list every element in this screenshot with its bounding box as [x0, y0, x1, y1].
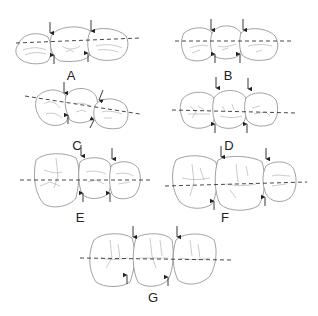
panel-f	[165, 146, 307, 210]
panel-label-f: F	[221, 210, 229, 225]
panel-label-b: B	[224, 68, 233, 83]
panel-d	[172, 77, 296, 133]
panel-label-a: A	[67, 68, 76, 83]
panel-g	[80, 226, 232, 287]
panel-c	[25, 82, 140, 129]
panel-label-c: C	[72, 138, 81, 153]
dental-contact-diagram	[0, 0, 318, 316]
panel-label-g: G	[148, 290, 158, 305]
panel-a	[16, 20, 140, 64]
panel-e	[20, 145, 150, 207]
panel-label-e: E	[76, 210, 85, 225]
panel-b	[175, 19, 292, 63]
panel-label-d: D	[224, 138, 233, 153]
